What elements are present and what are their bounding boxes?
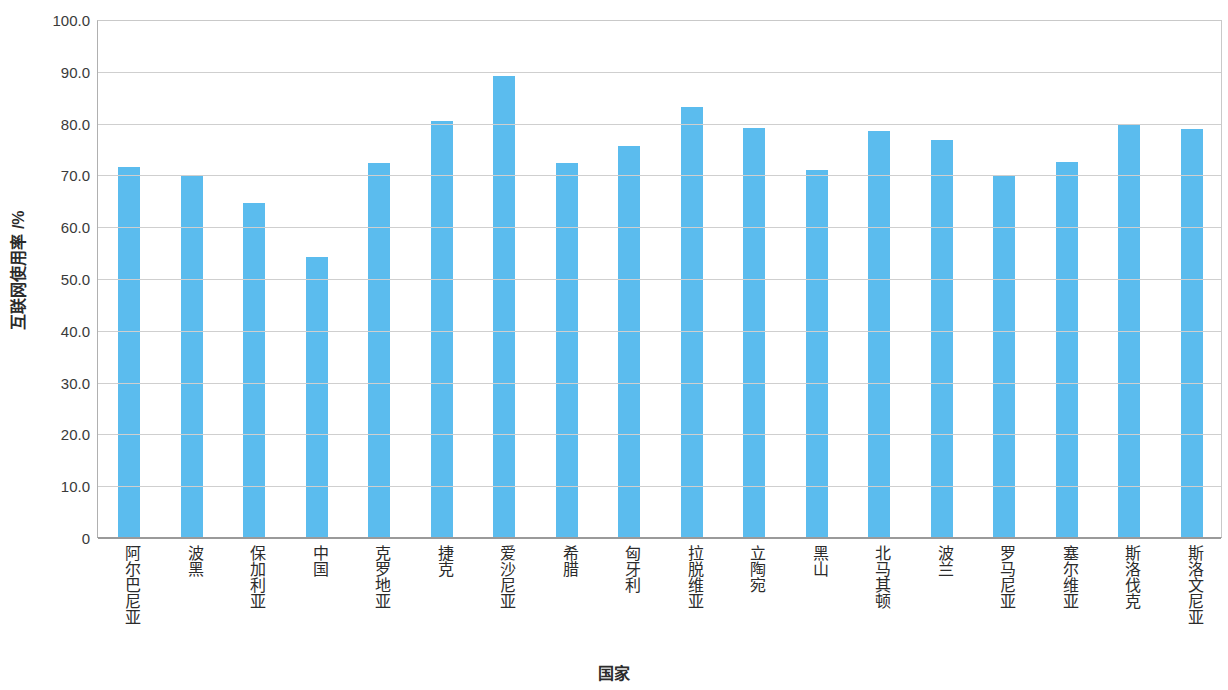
bar [118,167,140,537]
y-tick-label: 40.0 [30,322,90,339]
bar [681,107,703,537]
y-tick-label: 90.0 [30,63,90,80]
bar [556,163,578,538]
y-tick-label: 20.0 [30,426,90,443]
bar [1056,162,1078,537]
x-tick-label: 中国 [303,545,329,577]
bar-chart: 互联网使用率 /% 010.020.030.040.050.060.070.08… [0,0,1228,690]
y-tick-label: 70.0 [30,167,90,184]
gridline [98,279,1221,280]
gridline [98,175,1221,176]
x-tick-label: 捷克 [428,545,454,577]
plot-area [97,20,1222,538]
gridline [98,331,1221,332]
x-tick-label: 拉脱维亚 [678,545,704,609]
bar [931,140,953,537]
y-tick-label: 0 [30,530,90,547]
bar [1181,129,1203,537]
gridline [98,434,1221,435]
x-tick-label: 阿尔巴尼亚 [115,545,141,625]
x-tick-label: 塞尔维亚 [1053,545,1079,609]
x-tick-label: 匈牙利 [615,545,641,593]
y-axis-title: 互联网使用率 /% [5,145,29,395]
y-tick-label: 100.0 [30,12,90,29]
bar [993,175,1015,537]
x-tick-label: 波兰 [928,545,954,577]
y-tick-label: 30.0 [30,374,90,391]
x-tick-label: 斯洛伐克 [1115,545,1141,609]
bar [306,257,328,537]
x-axis-title: 国家 [0,660,1228,684]
y-axis-tick-labels: 010.020.030.040.050.060.070.080.090.0100… [30,0,90,560]
gridline [98,124,1221,125]
bar [806,170,828,537]
bar [743,128,765,537]
x-tick-label: 北马其顿 [865,545,891,609]
x-tick-label: 波黑 [178,545,204,577]
x-tick-label: 爱沙尼亚 [490,545,516,609]
gridline [98,486,1221,487]
bar [868,131,890,537]
x-tick-label: 克罗地亚 [365,545,391,609]
y-tick-label: 60.0 [30,219,90,236]
x-tick-label: 罗马尼亚 [990,545,1016,609]
gridline [98,72,1221,73]
gridline [98,538,1221,539]
bar [618,146,640,537]
x-tick-label: 保加利亚 [240,545,266,609]
y-tick-label: 80.0 [30,115,90,132]
x-tick-label: 立陶宛 [740,545,766,593]
x-tick-label: 希腊 [553,545,579,577]
bar [181,175,203,537]
x-tick-label: 斯洛文尼亚 [1178,545,1204,625]
gridline [98,227,1221,228]
bar [368,163,390,537]
y-tick-label: 10.0 [30,478,90,495]
gridline [98,383,1221,384]
y-tick-label: 50.0 [30,271,90,288]
x-tick-label: 黑山 [803,545,829,577]
bar [493,76,515,537]
x-axis-tick-labels: 阿尔巴尼亚波黑保加利亚中国克罗地亚捷克爱沙尼亚希腊匈牙利拉脱维亚立陶宛黑山北马其… [97,545,1222,665]
bar [431,121,453,537]
